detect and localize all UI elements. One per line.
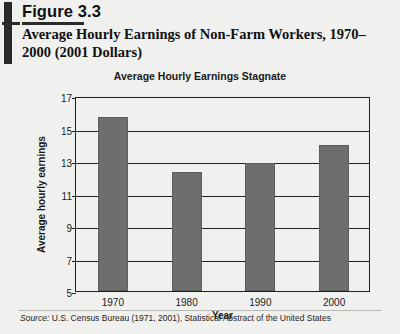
y-axis-label: Average hourly earnings — [36, 97, 50, 292]
bar — [319, 145, 349, 291]
y-tick-label: 15 — [61, 125, 72, 136]
bar-chart: Average Hourly Earnings Stagnate 5791113… — [0, 66, 400, 306]
y-tick-label: 11 — [62, 190, 72, 201]
source-prefix: Source: — [20, 313, 49, 323]
y-tick-mark — [72, 293, 76, 294]
figure-page: Figure 3.3 Average Hourly Earnings of No… — [0, 0, 400, 334]
bar — [98, 117, 128, 291]
y-tick-label: 7 — [66, 255, 72, 266]
figure-accent-bar — [4, 2, 12, 64]
x-tick-label: 2000 — [323, 297, 345, 308]
source-divider — [18, 310, 382, 311]
plot-area: 579111315171970198019902000 — [75, 97, 370, 292]
bar — [172, 172, 202, 291]
y-tick-label: 13 — [61, 158, 72, 169]
source-text: U.S. Census Bureau (1971, 2001), Statist… — [49, 313, 331, 323]
y-tick-mark — [72, 261, 76, 262]
y-tick-label: 9 — [66, 223, 72, 234]
y-tick-label: 17 — [61, 93, 72, 104]
y-tick-mark — [72, 131, 76, 132]
x-tick-label: 1980 — [176, 297, 198, 308]
figure-title: Average Hourly Earnings of Non-Farm Work… — [22, 26, 372, 62]
x-tick-label: 1990 — [249, 297, 271, 308]
y-tick-label: 5 — [66, 288, 72, 299]
bar — [245, 163, 275, 291]
x-tick-label: 1970 — [102, 297, 124, 308]
y-tick-mark — [72, 196, 76, 197]
figure-number: Figure 3.3 — [22, 2, 101, 21]
source-note: Source: U.S. Census Bureau (1971, 2001),… — [20, 313, 331, 323]
y-tick-mark — [72, 98, 76, 99]
figure-number-underline — [22, 22, 84, 25]
chart-title: Average Hourly Earnings Stagnate — [0, 70, 400, 82]
y-tick-mark — [72, 228, 76, 229]
y-tick-mark — [72, 163, 76, 164]
figure-accent-rule — [2, 22, 20, 25]
